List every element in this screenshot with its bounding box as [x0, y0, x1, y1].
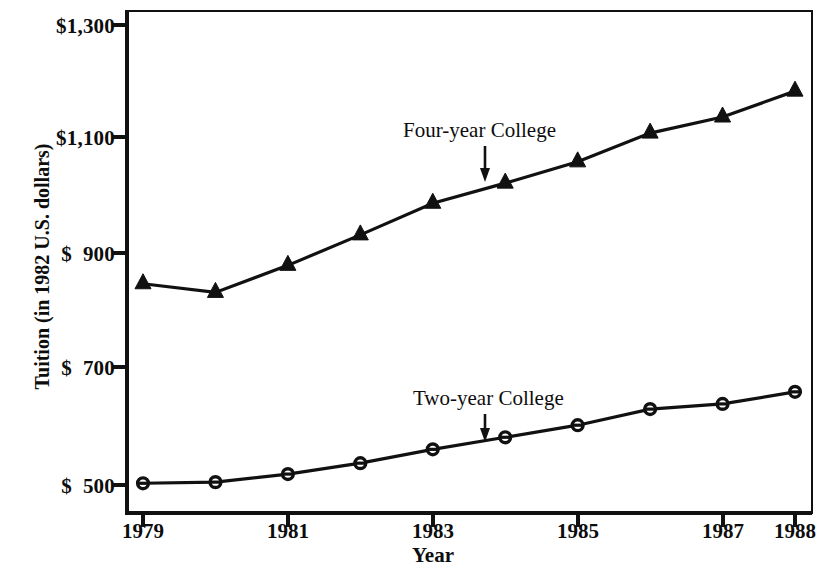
plot-area	[0, 0, 816, 570]
annotation-arrow-two-year	[480, 414, 490, 442]
series-two-year-markers	[138, 386, 801, 488]
axis-frame	[126, 11, 812, 513]
x-tick-marks	[143, 513, 795, 527]
series-two-year-college	[138, 386, 801, 488]
series-four-year-college	[135, 81, 803, 297]
tuition-line-chart: Tuition (in 1982 U.S. dollars) $1,300 $1…	[0, 0, 816, 570]
y-tick-marks	[113, 25, 127, 485]
annotation-arrow-four-year	[480, 146, 490, 182]
series-four-year-markers	[135, 81, 803, 297]
